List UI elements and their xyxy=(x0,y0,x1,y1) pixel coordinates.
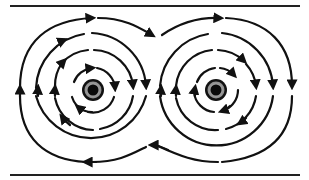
right-conductor xyxy=(205,79,227,101)
outer-envelope xyxy=(20,18,292,162)
field-lines-diagram xyxy=(0,0,309,180)
diagram-stage: Magnetic field lines around two parallel… xyxy=(0,0,309,180)
left-conductor xyxy=(82,79,104,101)
